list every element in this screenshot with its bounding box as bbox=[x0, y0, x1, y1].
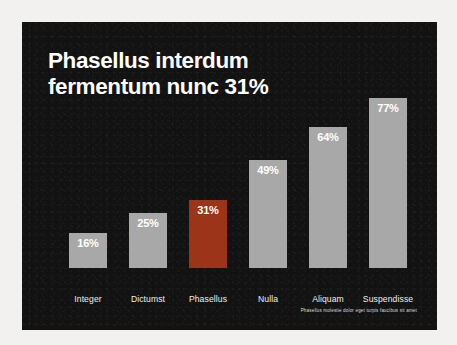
bar-column: 16% bbox=[69, 62, 107, 268]
bar-category-label: Integer bbox=[58, 294, 118, 304]
bar-value-label: 49% bbox=[249, 164, 287, 176]
slide-panel: Phasellus interdum fermentum nunc 31% 16… bbox=[22, 22, 437, 330]
bar[interactable]: 77% bbox=[369, 98, 407, 268]
bar-category-label: Aliquam bbox=[298, 294, 358, 304]
bar-column: 49% bbox=[249, 62, 287, 268]
chart-footnote: Phasellus molestie dolor eget turpis fau… bbox=[301, 308, 417, 313]
bar[interactable]: 64% bbox=[309, 127, 347, 268]
bar-column: 31% bbox=[189, 62, 227, 268]
bar-value-label: 31% bbox=[189, 204, 227, 216]
bar[interactable]: 49% bbox=[249, 160, 287, 268]
bar-category-label: Suspendisse bbox=[358, 294, 418, 304]
bar-category-label: Phasellus bbox=[178, 294, 238, 304]
slide-frame: Phasellus interdum fermentum nunc 31% 16… bbox=[0, 0, 457, 345]
bar-value-label: 16% bbox=[69, 237, 107, 249]
bar-value-label: 25% bbox=[129, 217, 167, 229]
bar-category-label: Dictumst bbox=[118, 294, 178, 304]
bar-column: 64% bbox=[309, 62, 347, 268]
bar[interactable]: 16% bbox=[69, 233, 107, 268]
bar-column: 77% bbox=[369, 62, 407, 268]
bar[interactable]: 31% bbox=[189, 200, 227, 268]
bar[interactable]: 25% bbox=[129, 213, 167, 268]
bar-value-label: 77% bbox=[369, 102, 407, 114]
bar-chart-plot-area: 16%25%31%49%64%77% bbox=[47, 62, 417, 268]
bar-category-label: Nulla bbox=[238, 294, 298, 304]
bar-value-label: 64% bbox=[309, 131, 347, 143]
bar-column: 25% bbox=[129, 62, 167, 268]
